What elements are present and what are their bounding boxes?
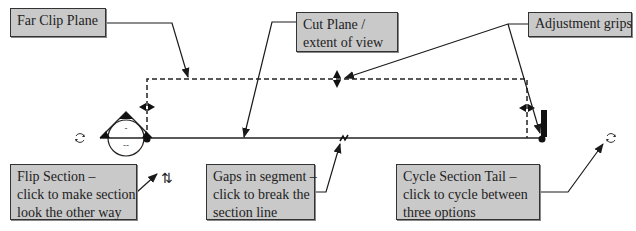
callout-adjustment-grips: Adjustment grips: [528, 12, 632, 37]
section-tail[interactable]: [539, 110, 548, 143]
section-head-arrow-top: [119, 112, 133, 119]
leader-cycle-tail: [540, 144, 603, 192]
callout-text: click to break the: [213, 186, 308, 204]
callout-text: Cycle Section Tail –: [403, 168, 533, 186]
gap-break-icon[interactable]: [340, 135, 348, 141]
callout-text: click to make section: [17, 186, 130, 204]
section-head-top-mark: -: [125, 123, 128, 133]
callout-text: Flip Section –: [17, 168, 130, 186]
callout-text: click to cycle between: [403, 186, 533, 204]
leader-flip: [137, 174, 157, 192]
callout-far-clip-plane: Far Clip Plane: [10, 8, 106, 37]
callout-flip-section: Flip Section – click to make section loo…: [10, 164, 137, 220]
callout-text: Adjustment grips: [535, 15, 625, 33]
callout-gaps-in-segment: Gaps in segment – click to break the sec…: [206, 164, 315, 220]
cycle-icon-left[interactable]: [75, 134, 85, 143]
callout-text: section line: [213, 204, 308, 222]
callout-text: Far Clip Plane: [17, 12, 99, 30]
callout-text: Cut Plane /: [303, 16, 391, 34]
leader-gaps: [315, 144, 340, 192]
callout-text: three options: [403, 204, 533, 222]
callout-text: Gaps in segment –: [213, 168, 308, 186]
callout-text: extent of view: [303, 34, 391, 52]
leader-far-clip: [106, 23, 188, 77]
section-head[interactable]: - --: [100, 112, 152, 156]
section-head-bottom-mark: --: [123, 140, 129, 150]
callout-cut-plane: Cut Plane / extent of view: [296, 12, 398, 52]
callout-text: look the other way: [17, 204, 130, 222]
callout-cycle-section-tail: Cycle Section Tail – click to cycle betw…: [396, 164, 540, 220]
cycle-icon-right[interactable]: [606, 134, 616, 143]
section-head-dot: [144, 136, 151, 143]
flip-section-icon[interactable]: ⇅: [161, 170, 173, 186]
